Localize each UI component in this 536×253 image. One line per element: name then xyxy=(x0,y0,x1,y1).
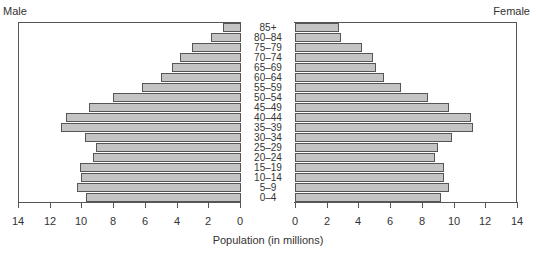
female-tick-label: 12 xyxy=(473,215,497,227)
female-bar xyxy=(295,103,449,112)
female-axis-tick xyxy=(390,202,391,208)
female-axis-tick xyxy=(422,202,423,208)
male-axis-tick xyxy=(50,202,51,208)
female-tick-label: 14 xyxy=(505,215,529,227)
male-bar xyxy=(161,73,241,82)
male-bar xyxy=(192,43,241,52)
female-axis-tick xyxy=(517,202,518,208)
female-bar xyxy=(295,63,376,72)
age-group-label: 0–4 xyxy=(243,193,293,203)
male-bar xyxy=(66,113,241,122)
male-tick-label: 0 xyxy=(228,215,252,227)
female-bar xyxy=(295,53,373,62)
male-axis-tick xyxy=(240,202,241,208)
female-tick-label: 8 xyxy=(410,215,434,227)
male-bar xyxy=(113,93,241,102)
male-axis-tick xyxy=(145,202,146,208)
female-bar xyxy=(295,143,438,152)
male-tick-label: 2 xyxy=(196,215,220,227)
male-bar xyxy=(81,173,241,182)
male-axis-tick xyxy=(208,202,209,208)
male-axis-tick xyxy=(81,202,82,208)
female-tick-label: 4 xyxy=(346,215,370,227)
male-bar xyxy=(80,163,241,172)
female-axis-tick xyxy=(295,202,296,208)
male-bar xyxy=(61,123,241,132)
male-bar xyxy=(96,143,241,152)
male-bar xyxy=(85,133,241,142)
male-bar xyxy=(223,23,241,32)
female-bar xyxy=(295,113,471,122)
male-tick-label: 8 xyxy=(101,215,125,227)
female-axis-tick xyxy=(485,202,486,208)
female-bar xyxy=(295,183,449,192)
female-bar xyxy=(295,163,444,172)
male-axis-tick xyxy=(177,202,178,208)
male-tick-label: 14 xyxy=(6,215,30,227)
female-bar xyxy=(295,133,452,142)
male-tick-label: 4 xyxy=(165,215,189,227)
male-tick-label: 6 xyxy=(133,215,157,227)
male-bar xyxy=(77,183,241,192)
female-axis-tick xyxy=(327,202,328,208)
female-tick-label: 6 xyxy=(378,215,402,227)
male-bar xyxy=(180,53,241,62)
female-bar xyxy=(295,123,473,132)
female-bar xyxy=(295,33,341,42)
male-tick-label: 10 xyxy=(69,215,93,227)
male-bar xyxy=(142,83,241,92)
male-bar xyxy=(93,153,241,162)
female-tick-label: 10 xyxy=(442,215,466,227)
male-bar xyxy=(211,33,241,42)
female-bar xyxy=(295,73,384,82)
female-bar xyxy=(295,193,441,202)
female-bar xyxy=(295,93,428,102)
female-bar xyxy=(295,153,435,162)
female-tick-label: 0 xyxy=(283,215,307,227)
female-axis-tick xyxy=(454,202,455,208)
female-title: Female xyxy=(493,5,530,17)
female-tick-label: 2 xyxy=(315,215,339,227)
male-axis-tick xyxy=(113,202,114,208)
male-bar xyxy=(86,193,241,202)
male-bar xyxy=(89,103,241,112)
female-bar xyxy=(295,173,444,182)
male-bar xyxy=(172,63,241,72)
female-axis-tick xyxy=(358,202,359,208)
male-axis-tick xyxy=(18,202,19,208)
female-bar xyxy=(295,43,362,52)
female-bar xyxy=(295,83,401,92)
male-tick-label: 12 xyxy=(38,215,62,227)
x-axis-label: Population (in millions) xyxy=(0,234,536,246)
female-bar xyxy=(295,23,339,32)
male-title: Male xyxy=(3,5,27,17)
